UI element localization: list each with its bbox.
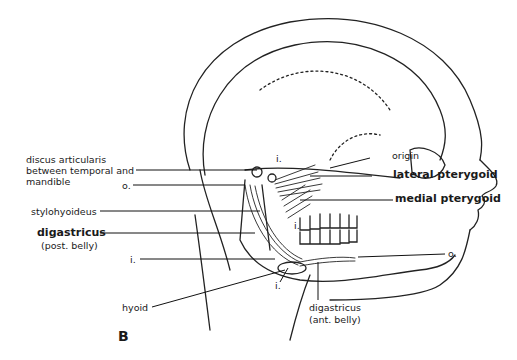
label-stylohyoideus: stylohyoideus [31,206,97,217]
label-line: discus articularis [26,154,134,165]
label-insertion-i-hyoid: i. [275,280,281,291]
label-digastricus-post: digastricus [37,227,106,238]
panel-letter: B [118,328,129,344]
label-origin-o-left: o. [122,180,131,191]
label-lateral-pterygoid: lateral pterygoid [393,169,498,180]
label-discus-articularis: discus articularis between temporal and … [26,154,134,187]
label-insertion-i-top: i. [276,153,282,164]
hyoid-bone [278,262,306,274]
label-line: between temporal and [26,165,134,176]
label-medial-pterygoid: medial pterygoid [395,193,501,204]
digastricus-anterior-belly [300,257,355,266]
label-origin-o-right: o. [448,248,457,259]
label-insertion-i-left: i. [130,254,136,265]
label-hyoid: hyoid [122,302,148,313]
label-insertion-i-teeth: i. [294,220,300,231]
label-line: mandible [26,176,134,187]
label-digastricus-post-sub: (post. belly) [41,240,98,251]
label-digastricus-ant-sub: (ant. belly) [309,314,361,325]
label-origin: origin [392,150,419,161]
label-digastricus-ant: digastricus [309,302,361,313]
medial-pterygoid-muscle [282,185,312,218]
teeth [300,214,357,244]
